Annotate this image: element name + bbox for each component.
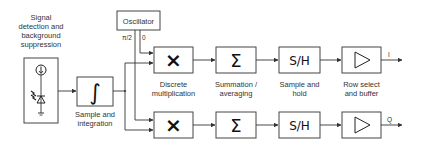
multiplier-block-q: × [154,112,193,138]
output-i-label: I [388,51,390,58]
integrator-block: ∫ [77,77,113,106]
svg-text:Summation /: Summation / [215,80,258,89]
multiply-icon: × [165,113,182,137]
svg-text:S/H: S/H [289,119,310,133]
svg-text:integration: integration [77,119,112,128]
svg-text:background: background [21,31,60,40]
svg-text:Discrete: Discrete [160,80,188,89]
svg-text:multiplication: multiplication [152,89,195,98]
buffer-block-q [342,112,381,138]
svg-text:suppression: suppression [21,40,61,49]
multiply-icon: × [165,48,182,72]
multiplier-block-i: × [154,47,193,73]
block-diagram: Signal detection and background suppress… [0,0,423,148]
svg-text:averaging: averaging [220,89,253,98]
detector-block [24,58,58,123]
svg-text:Oscillator: Oscillator [123,17,155,26]
svg-text:Sample and: Sample and [75,110,115,119]
sigma-icon: Σ [230,50,241,71]
detector-label: Signal detection and background suppress… [18,13,63,49]
summation-block-q: Σ [216,112,256,138]
svg-text:Sample and: Sample and [279,80,319,89]
svg-text:S/H: S/H [289,54,310,68]
svg-text:hold: hold [292,89,306,98]
buffer-block-i [342,47,381,73]
svg-text:Signal: Signal [31,13,52,22]
wire-osc-pi2 [135,30,153,120]
summation-block-i: Σ [216,47,256,73]
integral-icon: ∫ [89,80,100,105]
output-q-label: Q [387,116,392,124]
sample-hold-block-i: S/H [279,47,320,73]
svg-text:detection and: detection and [18,22,63,31]
phase-label-pi2: π/2 [122,34,132,41]
svg-text:and buffer: and buffer [345,89,379,98]
sample-hold-block-q: S/H [279,112,320,138]
svg-text:Row select: Row select [343,80,381,89]
phase-label-0: 0 [142,34,146,41]
oscillator-block: Oscillator [117,11,160,30]
sigma-icon: Σ [230,115,241,136]
